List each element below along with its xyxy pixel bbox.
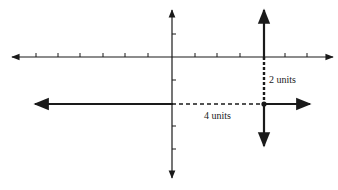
- vertical-shift-label: 2 units: [269, 74, 296, 85]
- horizontal-shift-label: 4 units: [204, 110, 231, 121]
- translated-origin-dot: [261, 101, 266, 106]
- translation-diagram: 2 units 4 units: [0, 0, 338, 190]
